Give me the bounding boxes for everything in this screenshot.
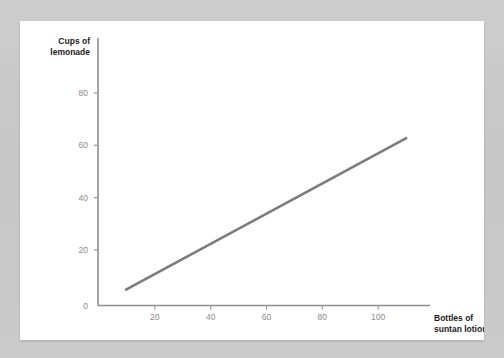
y-tick-label-80: 80 [79,88,89,98]
y-tick-label-40: 40 [79,193,89,203]
chart-card: 80 60 40 20 0 20 40 60 80 100 Cups of le… [20,21,484,340]
x-tick-label-40: 40 [206,312,216,322]
x-tick-label-60: 60 [262,312,272,322]
origin-tick-label: 0 [83,301,88,311]
x-tick-label-100: 100 [371,312,385,322]
chart-plot-area: 80 60 40 20 0 20 40 60 80 100 Cups of le… [20,21,484,340]
line-chart-svg: 80 60 40 20 0 20 40 60 80 100 Cups of le… [20,21,484,340]
y-axis-title-line2: lemonade [50,47,90,57]
x-tick-label-20: 20 [150,312,160,322]
x-axis-title-line1: Bottles of [434,313,473,323]
y-axis-title-line1: Cups of [58,36,90,46]
x-tick-label-80: 80 [318,312,328,322]
x-axis-title-line2: suntan lotion [434,324,484,334]
y-tick-label-20: 20 [79,245,89,255]
y-tick-label-60: 60 [79,140,89,150]
data-series-line [126,138,406,289]
